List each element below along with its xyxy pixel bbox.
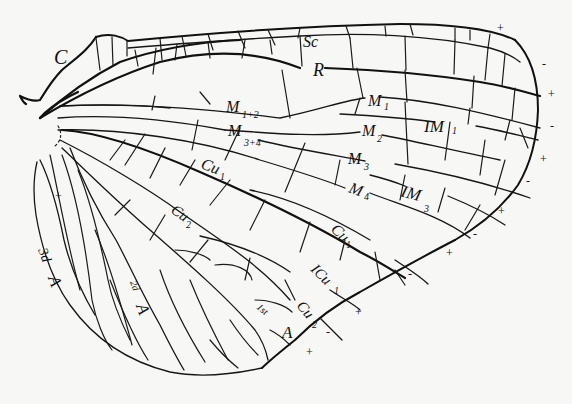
svg-text:M: M — [361, 122, 377, 139]
svg-text:IM: IM — [423, 117, 445, 136]
anal-branch-9 — [230, 320, 258, 355]
label-cu2-distal: Cu 2 — [294, 298, 318, 330]
label-first-anal: 1st A — [255, 301, 293, 342]
svg-text:-: - — [473, 227, 477, 241]
svg-text:-: - — [408, 267, 412, 281]
svg-text:3: 3 — [363, 161, 369, 172]
subcosta-vein — [128, 34, 520, 62]
svg-text:+: + — [548, 87, 555, 101]
svg-text:3: 3 — [423, 203, 429, 214]
svg-text:1: 1 — [346, 239, 351, 250]
svg-text:+: + — [306, 345, 313, 359]
icu1-vein — [200, 236, 360, 310]
svg-text:+: + — [540, 152, 547, 166]
base-dotted — [55, 126, 61, 146]
label-m1: M 1 — [367, 92, 389, 112]
svg-text:1st: 1st — [255, 301, 271, 317]
svg-text:+: + — [498, 204, 505, 218]
label-icu1: ICu 1 — [307, 260, 339, 296]
svg-text:1: 1 — [220, 171, 225, 182]
svg-text:2d: 2d — [128, 279, 142, 293]
posterior-margin — [262, 240, 455, 368]
label-m3: M 3 — [347, 150, 369, 172]
anal-branch-8 — [210, 340, 238, 368]
svg-text:+: + — [55, 189, 62, 203]
svg-text:A: A — [281, 323, 293, 342]
anal-margin — [34, 162, 262, 375]
svg-text:M: M — [347, 150, 363, 167]
svg-text:-: - — [550, 119, 554, 133]
svg-text:1: 1 — [334, 285, 339, 296]
label-cu1-outer: Cu 1 — [328, 220, 353, 250]
svg-text:ICu: ICu — [307, 260, 335, 288]
svg-text:2: 2 — [186, 219, 191, 230]
svg-text:-: - — [326, 325, 330, 339]
anal-branch-1 — [50, 155, 80, 290]
label-m4: M 4 — [346, 179, 369, 202]
svg-text:+: + — [446, 246, 453, 260]
label-second-anal: 2d A — [128, 279, 154, 318]
svg-text:M: M — [367, 92, 383, 109]
svg-text:+: + — [497, 21, 504, 35]
svg-text:1: 1 — [452, 125, 457, 136]
svg-text:2: 2 — [377, 133, 382, 144]
wing-venation-drawing: C Sc R M 1+2 M 3+4 M 1 M 2 M 3 M 4 IM 1 … — [0, 0, 572, 404]
svg-text:3d: 3d — [35, 245, 55, 265]
label-costa: C — [54, 46, 68, 68]
m3-34-vein — [58, 117, 530, 198]
radial-crossveins — [152, 68, 515, 120]
label-m12: M 1+2 — [225, 98, 259, 120]
svg-text:2: 2 — [312, 319, 317, 330]
anal-branch-6 — [160, 270, 205, 362]
label-im1: IM 1 — [423, 117, 457, 136]
svg-text:1: 1 — [384, 101, 389, 112]
svg-text:-: - — [526, 174, 530, 188]
svg-text:Cu: Cu — [294, 298, 318, 322]
svg-text:3+4: 3+4 — [243, 137, 261, 148]
svg-text:+: + — [355, 305, 362, 319]
svg-text:M: M — [225, 98, 241, 115]
svg-text:-: - — [542, 57, 546, 71]
wing-diagram: C Sc R M 1+2 M 3+4 M 1 M 2 M 3 M 4 IM 1 … — [0, 0, 572, 404]
label-radius: R — [312, 60, 324, 80]
svg-text:A: A — [132, 300, 154, 318]
svg-text:1+2: 1+2 — [242, 109, 259, 120]
label-subcosta: Sc — [303, 33, 318, 50]
svg-text:4: 4 — [364, 191, 369, 202]
svg-text:A: A — [44, 272, 66, 290]
svg-text:M: M — [227, 122, 243, 139]
apical-margin — [455, 40, 538, 240]
first-anal-vein — [62, 148, 268, 360]
anal-branch-7 — [190, 280, 228, 360]
label-m2: M 2 — [361, 122, 382, 144]
